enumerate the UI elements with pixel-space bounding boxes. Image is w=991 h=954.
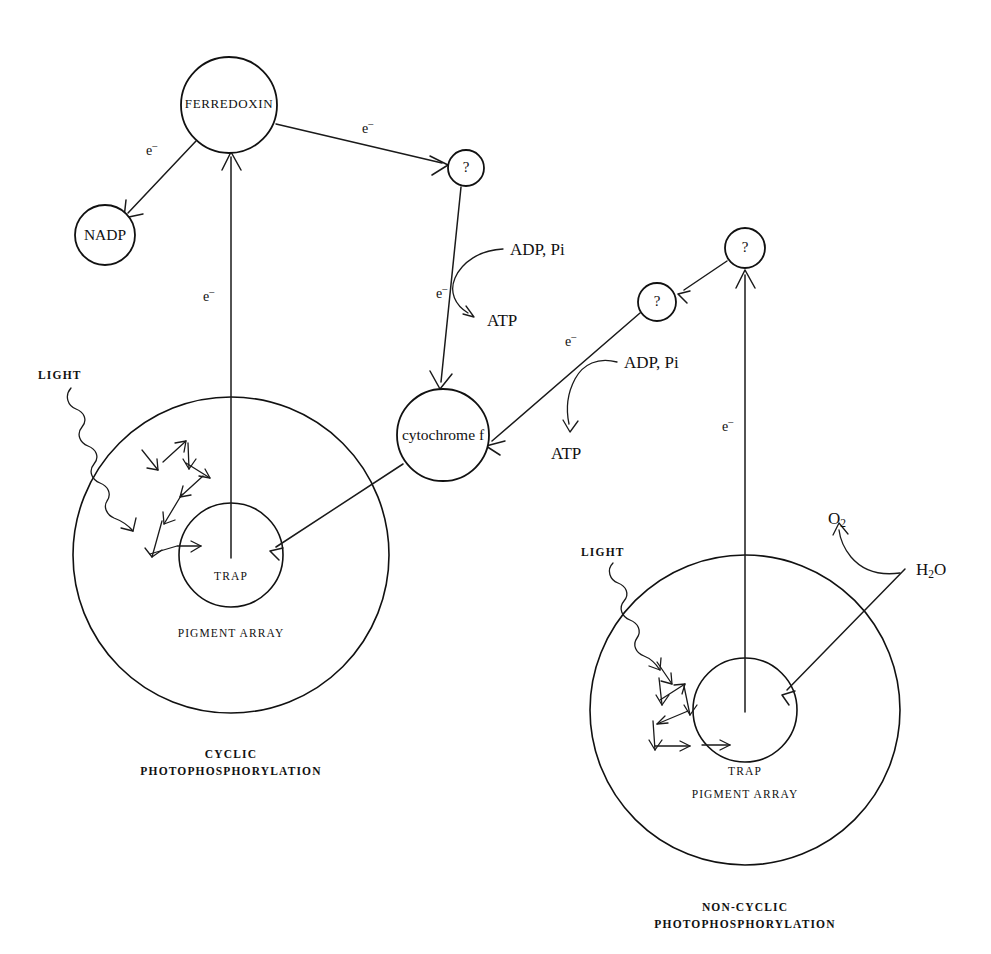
trap-label-right: TRAP bbox=[728, 765, 762, 777]
edge-unknown3-to-unknown2 bbox=[678, 261, 727, 303]
water-label: H2O bbox=[916, 560, 946, 580]
adp-pi-label-upper: ADP, Pi bbox=[510, 240, 565, 259]
electron-label-trap-to-unknown3: e– bbox=[722, 416, 734, 434]
pigment-array-label-right: PIGMENT ARRAY bbox=[692, 788, 799, 800]
edge-trap-to-ferredoxin bbox=[222, 152, 241, 558]
electron-label-unknown1-to-cytochrome: e– bbox=[436, 283, 448, 301]
oxygen-release-arrow bbox=[833, 523, 900, 574]
light-photon-arrow-right bbox=[609, 563, 661, 670]
unknown-label-1: ? bbox=[463, 159, 470, 175]
pigment-array-label-left: PIGMENT ARRAY bbox=[178, 627, 285, 639]
energy-transfer-arrows-right bbox=[649, 662, 730, 751]
adp-pi-label-lower: ADP, Pi bbox=[624, 353, 679, 372]
energy-transfer-arrows-left bbox=[142, 441, 210, 557]
unknown-label-3: ? bbox=[742, 239, 749, 255]
light-label-right: LIGHT bbox=[581, 546, 625, 558]
diagram-canvas: LIGHT TRAP PIGMENT ARRAY bbox=[0, 0, 991, 954]
atp-coupling-upper bbox=[453, 249, 503, 317]
oxygen-label: O2 bbox=[828, 509, 846, 529]
light-label-left: LIGHT bbox=[38, 369, 82, 381]
caption-left-line2: PHOTOPHOSPHORYLATION bbox=[140, 765, 321, 777]
photophosphorylation-diagram: LIGHT TRAP PIGMENT ARRAY bbox=[0, 0, 991, 954]
unknown-label-2: ? bbox=[654, 293, 661, 309]
ferredoxin-label: FERREDOXIN bbox=[185, 96, 273, 111]
edge-ferredoxin-to-nadp bbox=[124, 141, 196, 218]
caption-right-line2: PHOTOPHOSPHORYLATION bbox=[654, 918, 835, 930]
atp-label-lower: ATP bbox=[551, 444, 581, 463]
trap-label-left: TRAP bbox=[214, 570, 248, 582]
cytochrome-f-label: cytochrome f bbox=[402, 426, 485, 443]
atp-coupling-lower bbox=[563, 360, 617, 432]
electron-label-ferredoxin-to-nadp: e– bbox=[146, 140, 158, 158]
electron-label-ferredoxin-to-unknown1: e– bbox=[362, 118, 374, 136]
edge-unknown2-to-cytochrome bbox=[486, 313, 640, 455]
caption-left-line1: CYCLIC bbox=[205, 748, 257, 760]
caption-right-line1: NON-CYCLIC bbox=[702, 901, 788, 913]
edge-trap-to-unknown3 bbox=[736, 270, 755, 712]
electron-label-trap-to-ferredoxin: e– bbox=[203, 286, 215, 304]
nadp-label: NADP bbox=[84, 226, 126, 243]
electron-label-unknown2-to-cytochrome: e– bbox=[565, 331, 577, 349]
atp-label-upper: ATP bbox=[487, 311, 517, 330]
light-photon-arrow-left bbox=[67, 388, 136, 531]
